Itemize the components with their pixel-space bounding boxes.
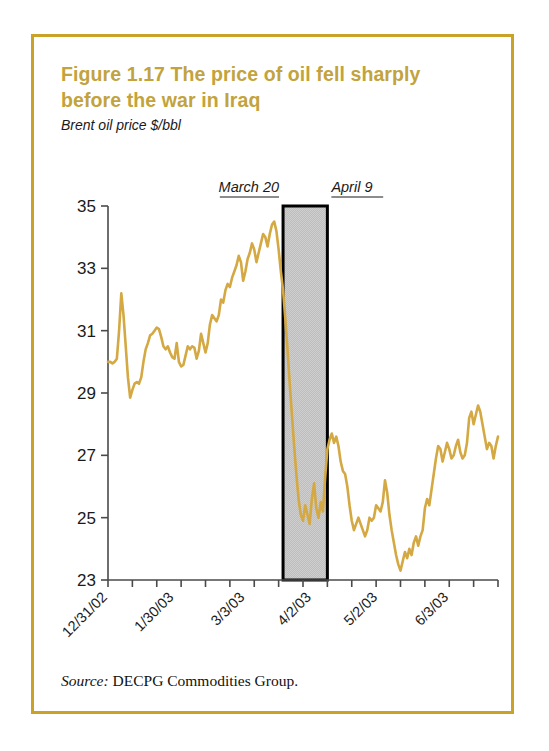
y-tick-label: 33: [77, 259, 96, 278]
chart-annotations: March 20April 9: [219, 179, 384, 197]
x-tick-label: 4/2/03: [274, 589, 314, 629]
chart-plot-area: 23252729313335 12/31/021/30/033/3/034/2/…: [34, 37, 517, 717]
y-tick-label: 31: [77, 322, 96, 341]
annotation-label: March 20: [219, 179, 279, 195]
x-tick-label: 3/3/03: [208, 589, 248, 629]
source-label: Source:: [61, 672, 109, 689]
x-axis-tick-labels: 12/31/021/30/033/3/034/2/035/2/036/3/03: [59, 589, 451, 640]
y-tick-label: 35: [77, 197, 96, 216]
y-tick-label: 29: [77, 384, 96, 403]
source-note: Source: DECPG Commodities Group.: [61, 672, 298, 690]
y-tick-label: 23: [77, 571, 96, 590]
source-text: DECPG Commodities Group.: [109, 672, 298, 689]
y-tick-label: 27: [77, 446, 96, 465]
y-tick-label: 25: [77, 509, 96, 528]
annotation-label: April 9: [330, 179, 372, 195]
x-tick-label: 12/31/02: [59, 589, 110, 640]
x-tick-label: 6/3/03: [412, 589, 452, 629]
figure-frame: Figure 1.17 The price of oil fell sharpl…: [31, 34, 514, 714]
y-axis-tick-labels: 23252729313335: [77, 197, 96, 590]
x-tick-label: 5/2/03: [341, 589, 381, 629]
x-tick-label: 1/30/03: [131, 589, 177, 635]
